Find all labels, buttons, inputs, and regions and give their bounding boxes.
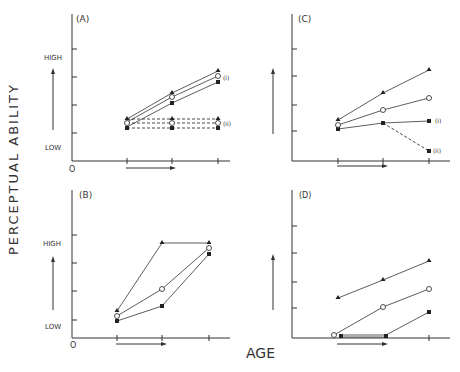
panel-d: (D) [271,190,450,346]
x-axis-label: AGE [246,345,275,361]
arrow-up-icon [51,68,55,74]
panel-a-annotation-i: (i) [223,74,229,81]
arrow-right-icon [382,164,388,168]
panel-c-title: (C) [298,14,311,24]
panel-b: (B) HIGH LOW O [43,190,230,350]
panel-c-annotation-i: (i) [435,117,441,124]
panel-b-high-label: HIGH [43,240,61,248]
panel-a: (A) HIGH LOW O (i) (ii) [44,14,231,174]
panel-d-title: (D) [299,191,311,200]
arrow-right-icon [161,342,167,346]
panel-a-origin: O [69,165,75,174]
arrow-up-icon [51,256,55,262]
arrow-right-icon [382,342,388,346]
panel-b-title: (B) [79,190,92,200]
figure-canvas: PERCEPTUAL ABILITY AGE (A) HIGH LOW O [0,0,460,372]
panel-a-low-label: LOW [45,144,61,152]
arrow-up-icon [271,68,275,74]
arrow-up-icon [271,254,275,260]
panel-a-annotation-ii: (ii) [223,120,231,127]
panel-c-annotation-ii: (ii) [433,147,441,154]
panel-a-high-label: HIGH [44,54,62,62]
panel-b-origin: O [70,341,76,350]
y-axis-label: PERCEPTUAL ABILITY [6,83,21,255]
panel-a-title: (A) [76,14,89,24]
panel-c: (C) (i) (ii) [271,14,450,168]
panel-b-low-label: LOW [45,323,61,331]
arrow-right-icon [170,166,176,170]
